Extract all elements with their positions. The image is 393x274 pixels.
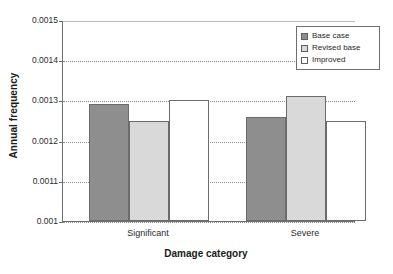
y-tick-label: 0.001 — [14, 217, 58, 226]
legend-swatch-icon — [301, 57, 308, 64]
gridline-0.001 — [63, 222, 355, 223]
legend-item: Base case — [301, 30, 375, 42]
y-axis-tick-labels: 0.0010.00110.00120.00130.00140.0015 — [10, 0, 58, 274]
legend-swatch-icon — [301, 45, 308, 52]
category-label-severe: Severe — [260, 228, 350, 238]
bar-revised-base-significant — [129, 121, 169, 222]
bar-base-case-severe — [246, 117, 286, 221]
legend-swatch-icon — [301, 33, 308, 40]
y-tick-label: 0.0015 — [14, 16, 58, 25]
x-axis-title: Damage category — [55, 248, 357, 259]
y-tick-label: 0.0011 — [14, 177, 58, 186]
bar-chart: Annual frequency 0.0010.00110.00120.0013… — [0, 0, 393, 274]
legend-label: Base case — [312, 31, 349, 41]
bar-base-case-significant — [89, 104, 129, 221]
legend-item: Revised base — [301, 42, 375, 54]
y-tick-label: 0.0014 — [14, 56, 58, 65]
y-tick-mark — [59, 222, 63, 223]
legend-label: Improved — [312, 55, 345, 65]
bar-improved-significant — [169, 100, 209, 221]
legend-label: Revised base — [312, 43, 360, 53]
bar-revised-base-severe — [286, 96, 326, 221]
y-tick-label: 0.0012 — [14, 137, 58, 146]
bar-improved-severe — [326, 121, 366, 222]
legend-item: Improved — [301, 54, 375, 66]
legend: Base caseRevised baseImproved — [296, 26, 380, 70]
category-label-significant: Significant — [103, 228, 193, 238]
y-tick-label: 0.0013 — [14, 96, 58, 105]
